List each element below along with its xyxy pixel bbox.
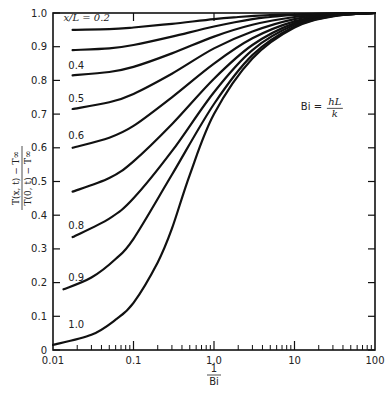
x-tick-label: 100 [365, 355, 384, 366]
curve-label: 1.0 [68, 319, 84, 330]
y-tick-label: 0.3 [31, 243, 47, 254]
y-axis-label: T(x, t) − T∞ T(0, t) − T∞ [11, 146, 33, 210]
curve-label: 0.6 [68, 130, 84, 141]
y-axis-label-denominator: T(0, t) − T∞ [23, 151, 33, 206]
curve-label: x/L = 0.2 [63, 12, 109, 23]
curve-0-5 [73, 13, 375, 109]
y-tick-label: 0.1 [31, 311, 47, 322]
curve-label: 0.4 [68, 60, 84, 71]
y-tick-label: 0.4 [31, 210, 47, 221]
chart: 0.010.11.010100 00.10.20.30.40.50.60.70.… [0, 0, 392, 394]
curve-label: 0.5 [68, 93, 84, 104]
y-tick-label: 0.9 [31, 41, 47, 52]
y-tick-label: 0.7 [31, 109, 47, 120]
y-tick-label: 0.6 [31, 142, 47, 153]
x-axis-label-numerator: 1 [211, 363, 217, 374]
y-tick-label: 0 [41, 345, 47, 356]
y-tick-label: 0.2 [31, 277, 47, 288]
y-tick-label: 0.8 [31, 75, 47, 86]
x-tick-label: 10 [288, 355, 301, 366]
curves [53, 13, 375, 345]
curve-0-9 [64, 13, 376, 289]
y-axis-label-numerator: T(x, t) − T∞ [11, 151, 21, 205]
biot-annotation-denominator: k [332, 108, 338, 119]
biot-annotation-numerator: hL [328, 96, 341, 107]
x-axis-label: 1 Bi [207, 363, 221, 387]
curve-label: 0.9 [68, 272, 84, 283]
biot-annotation: Bi = hL k [301, 96, 343, 119]
x-tick-label: 0.1 [126, 355, 142, 366]
y-tick-label: 1.0 [31, 8, 47, 19]
y-tick-label: 0.5 [31, 176, 47, 187]
x-tick-label: 0.01 [42, 355, 64, 366]
curve-labels: x/L = 0.20.40.50.60.80.91.0 [63, 12, 109, 330]
biot-annotation-text: Bi = [301, 101, 322, 112]
x-axis: 0.010.11.010100 [42, 13, 385, 366]
x-axis-label-denominator: Bi [209, 376, 219, 387]
curve-label: 0.8 [68, 220, 84, 231]
